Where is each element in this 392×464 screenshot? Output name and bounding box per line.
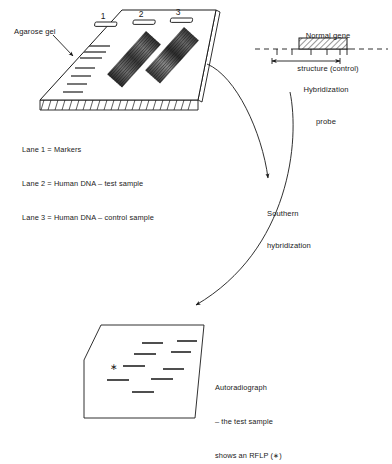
agarose-gel-label: Agarose gel (14, 27, 56, 37)
gel-lane-legend: Lane 1 = Markers Lane 2 = Human DNA – te… (22, 122, 154, 234)
gel-well-3 (170, 18, 193, 22)
autoradiograph-caption-line-2: – the test sample (215, 416, 282, 427)
southern-hybridization-label: Southern hybridization (267, 188, 311, 262)
lane-legend-line-1: Lane 1 = Markers (22, 144, 154, 155)
autoradiograph-outline (84, 325, 204, 418)
gel-lane-number-2: 2 (139, 9, 144, 19)
hybridization-probe-line-1: Hybridization (272, 85, 380, 96)
hybridization-probe-label: Hybridization probe (272, 64, 380, 138)
autoradiograph-caption: Autoradiograph – the test sample shows a… (215, 360, 282, 464)
hybridization-probe-line-2: probe (272, 117, 380, 128)
gel-well-2 (133, 20, 156, 24)
gel-lane-number-3: 3 (176, 7, 181, 17)
autoradiograph-film: ∗ (84, 325, 204, 418)
autoradiograph-caption-line-1: Autoradiograph (215, 382, 282, 393)
gel-to-autoradiograph-arrow (207, 64, 268, 178)
southern-label-line-2: hybridization (267, 241, 311, 252)
lane-legend-line-2: Lane 2 = Human DNA – test sample (22, 178, 154, 189)
lane-legend-line-3: Lane 3 = Human DNA – control sample (22, 212, 154, 223)
normal-gene-title-line-1: Normal gene (272, 30, 384, 41)
gel-well-1 (94, 22, 117, 26)
rflp-asterisk-marker: ∗ (110, 362, 118, 372)
agarose-gel-leader-arrow (53, 35, 73, 56)
agarose-gel: 1 2 3 (40, 7, 220, 110)
southern-label-line-1: Southern (267, 209, 311, 220)
autoradiograph-caption-line-3: shows an RFLP (∗) (215, 450, 282, 461)
gel-lane-number-1: 1 (101, 11, 106, 21)
